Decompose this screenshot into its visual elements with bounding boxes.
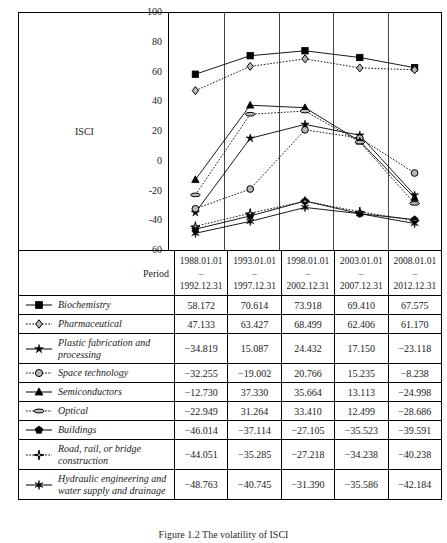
table-row: Optical−22.94931.26433.41012.499−28.686 [19,402,442,421]
series-road-rail-or-bridge-construction [191,197,419,231]
filled-triangle-marker-icon [247,101,254,108]
data-cell: −40.238 [388,440,441,470]
data-cell: −48.763 [175,470,228,500]
data-cell: −31.390 [281,470,334,500]
data-cell: −24.998 [388,383,441,402]
filled-star-marker-icon [35,344,44,352]
open-circle-marker-icon [192,205,199,212]
open-circle-marker-icon [411,170,418,177]
data-cell: 17.150 [335,334,388,364]
figure-page: 100806040200-20-40-60 ISCI Period 1988.0… [0,0,447,543]
open-ellipse-marker-icon [191,193,201,197]
data-cell: −34.238 [335,440,388,470]
period-column-header: 1993.01.01–1997.12.31 [228,251,281,296]
legend-marker [24,342,54,356]
period-dash: – [282,268,334,279]
open-ellipse-marker-icon [300,109,310,113]
legend-label: Space technology [58,367,128,379]
legend-label: Biochemistry [58,299,111,311]
filled-square-marker-icon [36,302,43,309]
period-column-header: 1998.01.01–2002.12.31 [281,251,334,296]
period-start: 2003.01.01 [335,254,387,268]
legend-cell: Optical [19,402,175,421]
data-cell: 63.427 [228,315,281,334]
table-body: Biochemistry58.17270.61473.91869.41067.5… [19,296,442,500]
legend-cell: Semiconductors [19,383,175,402]
data-cell: −35.523 [335,421,388,440]
legend-cell: Space technology [19,364,175,383]
legend-cell: Buildings [19,421,175,440]
open-diamond-marker-icon [247,62,253,70]
data-cell: 47.133 [175,315,228,334]
period-end: 2007.12.31 [335,279,387,293]
series-semiconductors [192,101,419,200]
filled-square-marker-icon [247,53,253,59]
data-cell: −35.586 [335,470,388,500]
chart-region: 100806040200-20-40-60 ISCI [0,0,447,250]
data-cell: 15.087 [228,334,281,364]
legend-cell: Pharmaceutical [19,315,175,334]
period-start: 1993.01.01 [228,254,280,268]
period-column-header: 2003.01.01–2007.12.31 [335,251,388,296]
legend-label: Optical [58,405,88,417]
open-ellipse-marker-icon [355,140,365,144]
table-row: Pharmaceutical47.13363.42768.49962.40661… [19,315,442,334]
data-cell: 33.410 [281,402,334,421]
period-end: 1992.12.31 [175,279,227,293]
table-row: Biochemistry58.17270.61473.91869.41067.5… [19,296,442,315]
data-cell: 58.172 [175,296,228,315]
legend-label: Buildings [58,424,96,436]
series-hydraulic-engineering-and-water-supply-and-drainage [192,203,419,237]
legend-marker [24,478,54,492]
data-cell: 31.264 [228,402,281,421]
data-cell: −32.255 [175,364,228,383]
data-cell: 69.410 [335,296,388,315]
data-cell: 67.575 [388,296,441,315]
legend-cell: Hydraulic engineering and water supply a… [19,470,175,500]
figure-caption: Figure 1.2 The volatility of ISCI [0,529,447,543]
table-row: Space technology−32.255−19.00220.76615.2… [19,364,442,383]
open-diamond-marker-icon [36,320,43,329]
table-row: Buildings−46.014−37.114−27.105−35.523−39… [19,421,442,440]
open-circle-marker-icon [35,369,42,376]
period-end: 2012.12.31 [389,279,441,293]
data-cell: 37.330 [228,383,281,402]
open-diamond-marker-icon [192,87,198,95]
data-cell: 70.614 [228,296,281,315]
legend-marker [24,298,54,312]
data-cell: −27.105 [281,421,334,440]
period-end: 2002.12.31 [282,279,334,293]
filled-star-marker-icon [246,134,254,142]
legend-marker [24,448,54,462]
legend-label: Road, rail, or bridge construction [58,443,174,467]
row-header-label: Period [19,251,175,296]
data-cell: 61.170 [388,315,441,334]
data-cell: −40.745 [228,470,281,500]
data-cell: −34.819 [175,334,228,364]
period-dash: – [228,268,280,279]
data-cell: −35.285 [228,440,281,470]
open-circle-marker-icon [247,186,254,193]
open-circle-marker-icon [302,127,309,134]
data-cell: −23.118 [388,334,441,364]
legend-marker [24,404,54,418]
data-cell: 13.113 [335,383,388,402]
period-start: 1988.01.01 [175,254,227,268]
data-cell: −44.051 [175,440,228,470]
data-cell: 24.432 [281,334,334,364]
filled-square-marker-icon [302,48,308,54]
data-cell: −46.014 [175,421,228,440]
legend-cell: Biochemistry [19,296,175,315]
legend-label: Semiconductors [58,386,122,398]
legend-label: Hydraulic engineering and water supply a… [58,473,174,497]
series-pharmaceutical [192,55,418,95]
table-row: Road, rail, or bridge construction−44.05… [19,440,442,470]
data-cell: 35.664 [281,383,334,402]
data-cell: −19.002 [228,364,281,383]
open-ellipse-marker-icon [245,112,255,116]
data-table: Period 1988.01.01–1992.12.311993.01.01–1… [18,250,442,500]
table-row: Semiconductors−12.73037.33035.66413.113−… [19,383,442,402]
filled-square-marker-icon [357,54,363,60]
data-cell: 68.499 [281,315,334,334]
data-cell: 12.499 [335,402,388,421]
